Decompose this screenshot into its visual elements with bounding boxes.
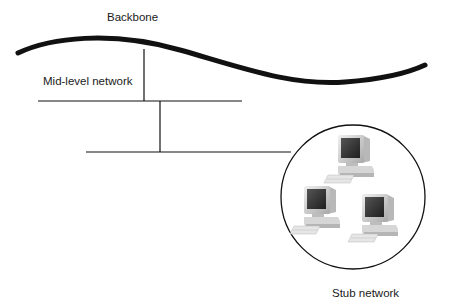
backbone-label: Backbone (107, 11, 158, 23)
network-diagram (0, 0, 449, 308)
mid-level-network-label: Mid-level network (43, 75, 132, 87)
stub-network-label: Stub network (332, 287, 399, 299)
